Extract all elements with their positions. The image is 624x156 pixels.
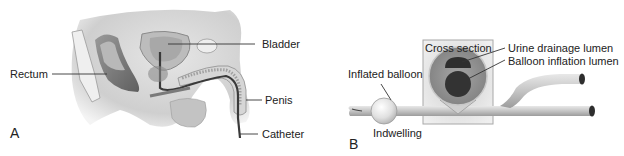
foley-catheter-illustration [0,0,624,156]
label-inflated-balloon: Inflated balloon [348,68,423,80]
label-indwelling: Indwelling [373,127,422,139]
catheter-figure: Bladder Rectum Penis Catheter A [0,0,624,156]
panel-letter-b: B [349,137,358,151]
label-balloon-inflation-lumen: Balloon inflation lumen [508,55,619,67]
label-cross-section: Cross section [425,42,492,54]
label-urine-drainage-lumen: Urine drainage lumen [508,42,613,54]
